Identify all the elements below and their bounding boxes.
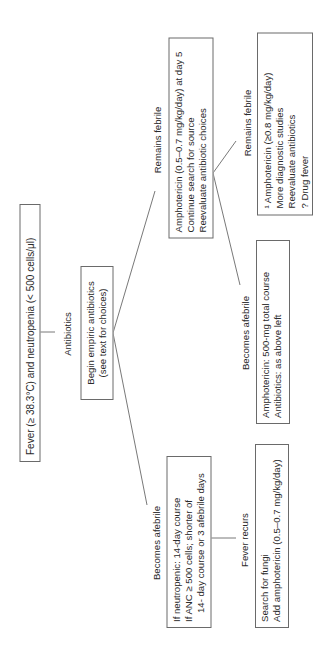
remains-febrile-line-1: Amphotericin (0.5–0.7 mg/kg/day) at day …: [172, 43, 184, 232]
remains-febrile-2-line-2: More diagnostic studies: [274, 39, 286, 208]
edge-label-antibiotics: Antibiotics: [62, 312, 74, 356]
connector-to-becomes-afebrile-2: [213, 173, 240, 285]
afebrile-2-line-2: Antibiotics: as above left: [272, 246, 284, 418]
afebrile-line-2: If ANC ≥ 500 cells; shorter of: [182, 462, 194, 622]
afebrile-course-box: If neutropenic: 14-day course If ANC ≥ 5…: [166, 456, 211, 628]
empiric-line-2: (see text for choices): [96, 272, 108, 394]
afebrile-line-3: 14- day course or 3 afebrile days: [194, 462, 206, 622]
fever-recurs-box: Search for fungi Add amphotericin (0.5–0…: [255, 444, 289, 628]
connector-empiric-to-remains-febrile: [113, 191, 155, 333]
empiric-line-1: Begin empiric antibiotics: [84, 272, 96, 394]
edge-label-fever-recurs: Fever recurs: [239, 513, 251, 567]
root-fever-neutropenia-box: Fever (≥ 38.3°C) and neutropenia (< 500 …: [19, 204, 40, 462]
remains-febrile-2-line-4: ? Drug fever: [299, 39, 311, 208]
remains-febrile-2-line-1: ¹ Amphotericin (≥0.8 mg/kg/day): [262, 39, 274, 208]
root-text: Fever (≥ 38.3°C) and neutropenia (< 500 …: [23, 211, 36, 455]
afebrile-line-1: If neutropenic: 14-day course: [170, 462, 182, 622]
connector-empiric-to-becomes-afebrile: [113, 333, 147, 505]
afebrile-2-line-1: Amphotericin: 500-mg total course: [260, 246, 272, 418]
afebrile-2-box: Amphotericin: 500-mg total course Antibi…: [256, 240, 290, 424]
edge-label-remains-febrile-2: Remains febrile: [242, 90, 254, 157]
edge-label-becomes-afebrile-2: Becomes afebrile: [240, 296, 252, 370]
fever-recurs-line-1: Search for fungi: [259, 450, 271, 622]
empiric-antibiotics-box: Begin empiric antibiotics (see text for …: [80, 266, 113, 400]
connector-to-remains-febrile-2: [213, 141, 236, 173]
remains-febrile-line-2: Continue search for source: [184, 43, 196, 232]
edge-label-remains-febrile-1: Remains febrile: [152, 107, 164, 174]
remains-febrile-2-box: ¹ Amphotericin (≥0.8 mg/kg/day) More dia…: [257, 32, 313, 215]
remains-febrile-2-line-3: Reevaluate antibiotics: [286, 39, 298, 208]
remains-febrile-box: Amphotericin (0.5–0.7 mg/kg/day) at day …: [168, 37, 213, 238]
fever-recurs-line-2: Add amphotericin (0.5–0.7 mg/kg/day): [271, 450, 283, 622]
remains-febrile-line-3: Reevaluate antibiotic choices: [196, 43, 208, 232]
edge-label-becomes-afebrile-1: Becomes afebrile: [151, 506, 163, 580]
